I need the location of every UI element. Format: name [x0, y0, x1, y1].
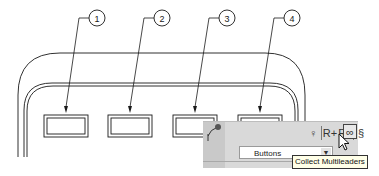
balloon-1: 1 [64, 10, 105, 113]
tooltip: Collect Multileaders [292, 155, 368, 169]
add-leader-plus-icon[interactable]: R+ [324, 126, 336, 140]
mouse-cursor-icon [338, 133, 352, 155]
svg-text:4: 4 [289, 14, 294, 24]
svg-text:1: 1 [94, 14, 99, 24]
balloon-2: 2 [128, 10, 170, 113]
multileader-icon [203, 122, 225, 144]
balloon-layer: 1234 [64, 10, 300, 113]
svg-text:3: 3 [224, 14, 229, 24]
add-leader-icon[interactable]: ♀ [307, 126, 319, 140]
balloon-4: 4 [258, 10, 300, 113]
svg-text:2: 2 [159, 14, 164, 24]
combo-value: Buttons [254, 149, 281, 158]
balloon-3: 3 [193, 10, 235, 113]
